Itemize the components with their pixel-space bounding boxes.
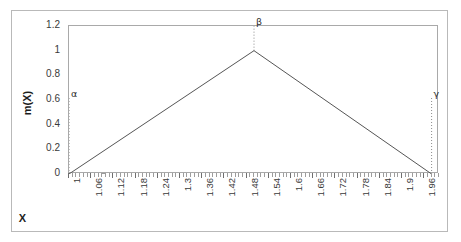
y-axis-ticks: 1.210.80.60.40.20 bbox=[36, 18, 66, 180]
x-axis-minor-tick bbox=[212, 173, 213, 177]
x-axis-minor-tick bbox=[371, 173, 372, 177]
x-axis-tick-label: 1.66 bbox=[316, 178, 326, 212]
x-axis-minor-tick bbox=[242, 173, 243, 177]
x-axis-minor-tick bbox=[412, 173, 413, 177]
x-axis-tick-label: 1.48 bbox=[250, 178, 260, 212]
x-axis-minor-tick bbox=[124, 173, 125, 177]
x-axis-minor-tick bbox=[320, 173, 321, 177]
x-axis-title: X bbox=[0, 212, 461, 224]
y-axis-tick-label: 0 bbox=[54, 168, 60, 178]
x-axis-minor-tick bbox=[231, 173, 232, 177]
annotation-guides bbox=[69, 26, 432, 174]
x-axis-minor-tick bbox=[72, 173, 73, 177]
x-axis-minor-tick bbox=[131, 173, 132, 177]
x-axis-minor-tick bbox=[316, 173, 317, 177]
y-axis-tick-label: 0.2 bbox=[46, 143, 60, 153]
x-axis-minor-tick bbox=[209, 173, 210, 177]
x-axis-tick-label: 1.9 bbox=[405, 178, 415, 212]
annotation-label-alpha: α bbox=[71, 89, 77, 99]
x-axis-minor-tick bbox=[87, 173, 88, 177]
x-axis-minor-tick bbox=[109, 173, 110, 177]
x-axis-minor-tick bbox=[360, 173, 361, 177]
x-axis-tick-label: 1 bbox=[72, 178, 82, 212]
x-axis-minor-tick bbox=[127, 173, 128, 177]
x-axis-minor-tick bbox=[405, 173, 406, 177]
x-axis-minor-tick bbox=[161, 173, 162, 177]
x-axis-minor-tick bbox=[364, 173, 365, 177]
x-axis-minor-tick bbox=[186, 173, 187, 177]
x-axis-minor-tick bbox=[235, 173, 236, 177]
x-axis-minor-tick bbox=[383, 173, 384, 177]
x-axis-minor-tick bbox=[338, 173, 339, 177]
x-axis-minor-tick bbox=[175, 173, 176, 177]
x-axis-minor-tick bbox=[346, 173, 347, 177]
annotation-label-gamma: γ bbox=[434, 89, 440, 99]
x-axis-minor-tick bbox=[327, 173, 328, 177]
membership-function-line bbox=[69, 51, 432, 174]
x-axis-minor-tick bbox=[375, 173, 376, 177]
x-axis-minor-tick bbox=[305, 173, 306, 177]
x-axis-minor-tick bbox=[438, 173, 439, 177]
plot-svg bbox=[69, 26, 439, 174]
x-axis-minor-tick bbox=[198, 173, 199, 177]
x-axis-tick-label: 1.24 bbox=[161, 178, 171, 212]
x-axis-tick-label: 1.12 bbox=[116, 178, 126, 212]
plot-area: αβγ bbox=[68, 25, 438, 173]
y-axis-tick-label: 1.2 bbox=[46, 20, 60, 30]
x-axis-tick-label: 1.36 bbox=[205, 178, 215, 212]
x-axis-tick-label: 1.42 bbox=[227, 178, 237, 212]
x-axis-minor-tick bbox=[431, 173, 432, 177]
x-axis-minor-tick bbox=[309, 173, 310, 177]
x-axis-minor-tick bbox=[301, 173, 302, 177]
x-axis-minor-tick bbox=[205, 173, 206, 177]
y-axis-tick-label: 1 bbox=[54, 45, 60, 55]
x-axis-minor-tick bbox=[260, 173, 261, 177]
x-axis-tick-label: 1.6 bbox=[294, 178, 304, 212]
x-axis-minor-tick bbox=[183, 173, 184, 177]
x-axis-minor-tick bbox=[194, 173, 195, 177]
x-axis-minor-tick bbox=[216, 173, 217, 177]
x-axis-tick-label: 1.18 bbox=[139, 178, 149, 212]
x-axis-minor-tick bbox=[220, 173, 221, 177]
x-axis-tick-labels: 11.061.121.181.241.31.361.421.481.541.61… bbox=[68, 178, 438, 210]
x-axis-minor-tick bbox=[264, 173, 265, 177]
x-axis-minor-tick bbox=[416, 173, 417, 177]
x-axis-tick-label: 1.54 bbox=[272, 178, 282, 212]
x-axis-minor-tick bbox=[368, 173, 369, 177]
x-axis-minor-tick bbox=[349, 173, 350, 177]
x-axis-minor-tick bbox=[190, 173, 191, 177]
x-axis-title-label: X bbox=[19, 212, 26, 224]
x-axis-tick-label: 1.96 bbox=[427, 178, 437, 212]
chart-figure: m(X) 1.210.80.60.40.20 αβγ 11.061.121.18… bbox=[0, 0, 461, 242]
x-axis-minor-tick bbox=[101, 173, 102, 177]
x-axis-minor-tick bbox=[257, 173, 258, 177]
x-axis-minor-tick bbox=[279, 173, 280, 177]
x-axis-minor-tick bbox=[434, 173, 435, 177]
x-axis-minor-tick bbox=[394, 173, 395, 177]
x-axis-minor-tick bbox=[427, 173, 428, 177]
x-axis-minor-tick bbox=[249, 173, 250, 177]
x-axis-minor-tick bbox=[272, 173, 273, 177]
y-axis-tick-label: 0.6 bbox=[46, 94, 60, 104]
x-axis-minor-tick bbox=[397, 173, 398, 177]
x-axis-minor-tick bbox=[105, 173, 106, 177]
x-axis-minor-tick bbox=[164, 173, 165, 177]
x-axis-tick-label: 1.3 bbox=[183, 178, 193, 212]
x-axis-minor-tick bbox=[172, 173, 173, 177]
x-axis-minor-tick bbox=[149, 173, 150, 177]
annotation-label-beta: β bbox=[256, 17, 262, 27]
x-axis-minor-tick bbox=[342, 173, 343, 177]
x-axis-minor-tick bbox=[146, 173, 147, 177]
x-axis-minor-tick bbox=[79, 173, 80, 177]
x-axis-minor-tick bbox=[420, 173, 421, 177]
x-axis-minor-tick bbox=[238, 173, 239, 177]
x-axis-minor-tick bbox=[116, 173, 117, 177]
x-axis-minor-tick bbox=[94, 173, 95, 177]
x-axis-tick-label: 1.78 bbox=[361, 178, 371, 212]
x-axis-minor-tick bbox=[286, 173, 287, 177]
x-axis-tick-label: 1.06 bbox=[94, 178, 104, 212]
x-axis-minor-tick bbox=[386, 173, 387, 177]
x-axis-minor-tick bbox=[153, 173, 154, 177]
x-axis-minor-tick bbox=[331, 173, 332, 177]
x-axis-tick-label: 1.72 bbox=[338, 178, 348, 212]
